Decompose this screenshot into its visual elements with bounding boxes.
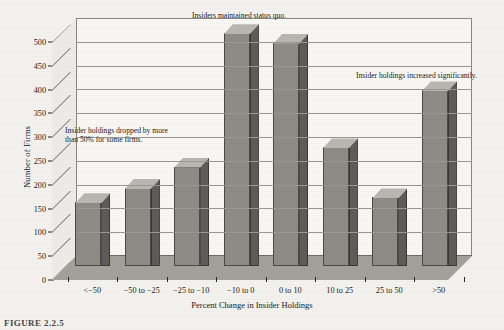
x-axis-tickmark	[315, 277, 316, 282]
figure-caption-label: FIGURE 2.2.5	[4, 318, 64, 328]
bar-side-face	[398, 188, 407, 266]
gridline	[76, 66, 472, 67]
figure-caption: FIGURE 2.2.5	[4, 318, 64, 328]
bar-side-face	[448, 81, 457, 266]
side-wall-guide	[52, 48, 71, 67]
annotation-left: Insider holdings dropped by more than 50…	[65, 126, 168, 145]
plot-left-wall	[52, 18, 77, 280]
x-axis-tickmark	[365, 277, 366, 282]
bar-6	[323, 147, 349, 266]
bar-3	[174, 167, 200, 267]
bar-1	[75, 202, 101, 266]
x-axis-tick-2: −50 to −25	[124, 286, 160, 295]
gridline	[76, 89, 472, 90]
y-axis-tick-200: 200	[34, 180, 46, 189]
side-wall-guide	[52, 143, 71, 162]
x-axis-tick-1: <−50	[84, 286, 101, 295]
bar-side-face	[101, 193, 110, 266]
bar-front-face	[323, 147, 349, 266]
side-wall-guide	[52, 95, 71, 114]
bar-front-face	[174, 167, 200, 267]
y-axis-tick-350: 350	[34, 109, 46, 118]
y-axis-tick-labels: 050100150200250300350400450500	[14, 0, 52, 330]
y-axis-tick-400: 400	[34, 85, 46, 94]
side-wall-guide	[52, 214, 71, 233]
annotation-right: Insider holdings increased significantly…	[356, 71, 477, 80]
y-axis-tick-100: 100	[34, 228, 46, 237]
x-axis-tickmark	[414, 277, 415, 282]
y-axis-tick-450: 450	[34, 61, 46, 70]
y-axis-tick-300: 300	[34, 133, 46, 142]
x-axis-tickmark	[167, 277, 168, 282]
x-axis-title: Percent Change in Insider Holdings	[0, 300, 504, 310]
bar-8	[422, 90, 448, 266]
bar-side-face	[151, 179, 160, 267]
side-wall-guide	[52, 167, 71, 186]
side-wall-guide	[52, 238, 71, 257]
x-axis-tick-6: 10 to 25	[326, 286, 353, 295]
bar-side-face	[200, 158, 209, 267]
bar-front-face	[75, 202, 101, 266]
gridline	[76, 185, 472, 186]
y-axis-tick-50: 50	[38, 252, 46, 261]
y-axis-tick-250: 250	[34, 157, 46, 166]
gridline	[76, 161, 472, 162]
x-axis-tickmark	[464, 277, 465, 282]
x-axis-tickmark	[68, 277, 69, 282]
y-axis-tick-500: 500	[34, 38, 46, 47]
y-axis-tick-150: 150	[34, 204, 46, 213]
x-axis-tickmark	[216, 277, 217, 282]
gridline	[76, 208, 472, 209]
x-axis-tick-8: >50	[432, 286, 445, 295]
x-axis-tickmark	[117, 277, 118, 282]
plot-floor	[52, 256, 472, 282]
side-wall-guide	[52, 24, 71, 43]
x-axis-tick-5: 0 to 10	[279, 286, 302, 295]
gridline	[76, 113, 472, 114]
plot-area	[52, 18, 472, 278]
bar-side-face	[349, 138, 358, 266]
gridline	[76, 42, 472, 43]
x-axis-tick-4: −10 to 0	[227, 286, 254, 295]
annotation-middle: Insiders maintained status quo.	[192, 11, 286, 20]
figure-container: Number of Firms 050100150200250300350400…	[0, 0, 504, 330]
bar-side-face	[250, 24, 259, 266]
y-axis-tick-0: 0	[42, 276, 46, 285]
x-axis-tick-3: −25 to −10	[173, 286, 209, 295]
x-axis-tick-7: 25 to 50	[376, 286, 403, 295]
bar-front-face	[422, 90, 448, 266]
side-wall-guide	[52, 190, 71, 209]
x-axis-tickmark	[266, 277, 267, 282]
bar-front-face	[125, 188, 151, 267]
side-wall-guide	[52, 71, 71, 90]
bar-2	[125, 188, 151, 267]
gridline	[76, 232, 472, 233]
